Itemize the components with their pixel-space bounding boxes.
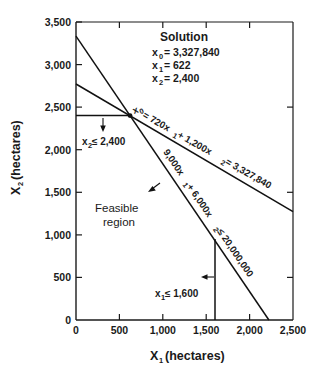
y-axis-title-main: X xyxy=(9,186,23,195)
x2-constraint-arrow-head-icon xyxy=(100,126,106,133)
solution-x1-value: 622 xyxy=(173,59,191,71)
y-tick-label-3000: 3,000 xyxy=(45,59,71,71)
feasible-region-label: Feasible region xyxy=(95,202,138,228)
y-tick-label-500: 500 xyxy=(53,271,71,283)
objective-function-line xyxy=(76,84,293,212)
y-axis-tick-labels: 3,500 3,000 2,500 2,000 1,500 1,000 500 … xyxy=(45,16,71,326)
x-axis-title: X 1 (hectares) xyxy=(150,349,225,365)
resource-label-seg1: 9,000x xyxy=(161,147,187,178)
resource-constraint-arrow xyxy=(148,183,160,192)
y-axis-title: X 2 (hectares) xyxy=(9,120,25,195)
solution-x2-eq: = xyxy=(164,72,170,84)
y-tick-label-0: 0 xyxy=(65,314,71,326)
x-axis-title-unit: (hectares) xyxy=(165,349,225,363)
feasible-region-line2: region xyxy=(103,216,135,228)
solution-x0-value: 3,327,840 xyxy=(173,46,220,58)
x-axis-title-sub: 1 xyxy=(159,356,163,365)
x-axis-tick-labels: 0 500 1,000 1,500 2,000 2,500 xyxy=(73,324,306,336)
x-tick-label-0: 0 xyxy=(73,324,79,336)
x-tick-label-1000: 1,000 xyxy=(150,324,176,336)
solution-x2-value: 2,400 xyxy=(173,72,199,84)
solution-box: Solution x 0 = 3,327,840 x 1 = 622 x 2 =… xyxy=(152,30,220,87)
linear-programming-chart: 3,500 3,000 2,500 2,000 1,500 1,000 500 … xyxy=(0,0,331,376)
solution-x1-sub: 1 xyxy=(159,65,163,74)
y-axis-ticks xyxy=(76,22,82,277)
solution-x1-var: x xyxy=(152,59,158,71)
feasible-region-line1: Feasible xyxy=(95,202,138,214)
x-tick-label-500: 500 xyxy=(111,324,129,336)
x1-constraint-arrow-head-icon xyxy=(201,274,208,280)
solution-x0-sub: 0 xyxy=(159,52,163,61)
solution-x2-sub: 2 xyxy=(159,78,163,87)
y-axis-title-sub: 2 xyxy=(16,182,25,186)
resource-label-seg2: + 6,000x xyxy=(185,182,216,220)
solution-x0-var: x xyxy=(152,46,158,58)
x-tick-label-2000: 2,000 xyxy=(236,324,262,336)
x2-constraint-annotation: x 2 ≤ 2,400 xyxy=(82,118,126,150)
x1-constraint-label-rest: ≤ 1,600 xyxy=(165,288,199,299)
x-tick-label-1500: 1,500 xyxy=(193,324,219,336)
y-tick-label-1000: 1,000 xyxy=(45,229,71,241)
solution-row-x2: x 2 = 2,400 xyxy=(152,72,199,87)
solution-x0-eq: = xyxy=(164,46,170,58)
solution-x1-eq: = xyxy=(164,59,170,71)
x2-constraint-label-rest: ≤ 2,400 xyxy=(92,136,126,147)
y-tick-label-2000: 2,000 xyxy=(45,144,71,156)
y-tick-label-2500: 2,500 xyxy=(45,101,71,113)
objective-label-seg2: + 1,200x xyxy=(176,129,215,157)
objective-line-label: = 720x 1 + 1,200x 2 = 3,327,840 xyxy=(140,109,274,193)
solution-x2-var: x xyxy=(152,72,158,84)
optimum-vertex-marker xyxy=(128,113,133,118)
y-tick-label-1500: 1,500 xyxy=(45,186,71,198)
solution-title: Solution xyxy=(160,30,208,44)
objective-label-seg1: = 720x xyxy=(141,109,173,133)
x-axis-title-main: X xyxy=(150,349,159,363)
x-tick-label-2500: 2,500 xyxy=(280,324,306,336)
y-tick-label-3500: 3,500 xyxy=(45,16,71,28)
y-axis-title-unit: (hectares) xyxy=(9,120,23,180)
x1-constraint-annotation: x 1 ≤ 1,600 xyxy=(155,274,214,301)
figure-root: 3,500 3,000 2,500 2,000 1,500 1,000 500 … xyxy=(0,0,331,376)
